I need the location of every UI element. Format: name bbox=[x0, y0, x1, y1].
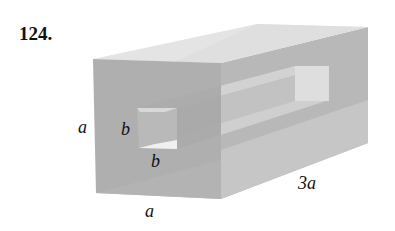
figure-stage: 124. a b b a 3a bbox=[0, 0, 395, 231]
box-diagram: 124. a b b a 3a bbox=[0, 0, 395, 231]
hole-back-opening bbox=[295, 66, 329, 101]
label-hole-height-b: b bbox=[121, 119, 130, 139]
problem-number: 124. bbox=[19, 23, 52, 44]
label-width-a: a bbox=[145, 201, 154, 221]
label-height-a: a bbox=[78, 117, 87, 137]
label-hole-width-b: b bbox=[151, 151, 160, 171]
label-length-3a: 3a bbox=[297, 173, 316, 193]
